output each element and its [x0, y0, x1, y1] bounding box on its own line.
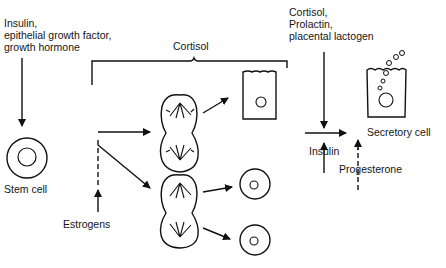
label-left-hormones: Insulin, epithelial growth factor, growt…	[4, 17, 111, 53]
arrow-lower-to-daughter-1	[203, 187, 232, 192]
label-progesterone: Progesterone	[339, 163, 402, 175]
lower-spindle-bottom	[170, 222, 191, 237]
daughter-cell-1	[240, 169, 270, 199]
arrow-lower-to-daughter-2	[203, 228, 230, 239]
label-cortisol: Cortisol	[173, 40, 209, 52]
secretory-granule	[384, 71, 389, 76]
secretory-granule	[381, 79, 385, 83]
label-secretory-cell: Secretory cell	[367, 126, 431, 138]
secretory-granule	[400, 51, 405, 56]
stem-cell	[7, 138, 47, 178]
label-estrogens: Estrogens	[63, 218, 110, 230]
epithelial-cell	[243, 71, 276, 119]
secretory-granule	[394, 55, 399, 60]
daughter-cell-1-nucleus	[250, 181, 258, 189]
epithelial-nucleus	[256, 97, 266, 107]
daughter-cell-2	[240, 225, 270, 255]
arrow-upper-to-epithelial	[203, 98, 228, 113]
upper-spindle-top	[166, 103, 194, 118]
secretory-granule	[378, 86, 382, 90]
label-right-hormones: Cortisol, Prolactin, placental lactogen	[289, 6, 374, 42]
stem-cell-nucleus	[18, 148, 36, 166]
label-stem-cell: Stem cell	[4, 183, 47, 195]
lower-spindle-top	[170, 183, 191, 198]
label-insulin: Insulin	[309, 145, 339, 157]
upper-spindle-bottom	[166, 145, 194, 160]
daughter-cell-2-nucleus	[250, 237, 258, 245]
secretory-nucleus	[379, 93, 393, 107]
secretory-granule	[387, 61, 392, 66]
arrow-stem-to-lower-division	[98, 145, 150, 188]
